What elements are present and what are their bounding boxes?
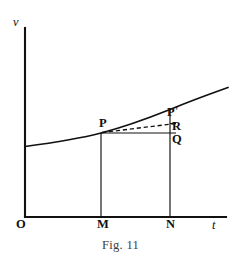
y-axis-label: v (13, 16, 19, 29)
velocity-curve (25, 88, 228, 147)
point-label-n: N (166, 218, 175, 231)
point-label-r: R (172, 120, 181, 133)
figure-caption: Fig. 11 (0, 238, 241, 253)
point-label-p-prime: P′ (167, 106, 177, 119)
point-label-m: M (97, 218, 109, 231)
point-label-p-prime-mark: ′ (175, 104, 178, 118)
origin-label: O (16, 218, 26, 231)
chord-pr-dashed-line (102, 124, 176, 133)
x-axis-label: t (212, 219, 215, 232)
velocity-time-diagram (0, 0, 241, 271)
figure-container: v t O P P′ R Q M N Fig. 11 (0, 0, 241, 271)
point-label-q: Q (172, 133, 182, 146)
point-label-p: P (99, 117, 107, 130)
point-label-p-prime-base: P (167, 105, 175, 119)
